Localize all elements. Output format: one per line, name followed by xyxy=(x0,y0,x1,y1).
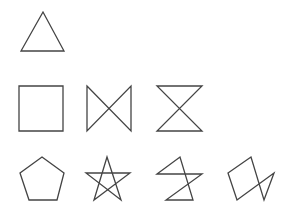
pentagram xyxy=(86,157,130,200)
zigzag-pentagon-path xyxy=(157,157,202,200)
bowtie xyxy=(87,86,131,131)
shapes-diagram xyxy=(0,0,286,219)
square xyxy=(19,86,63,131)
pentagon xyxy=(20,157,64,200)
tilted-pentagon-path xyxy=(228,157,274,200)
triangle xyxy=(21,12,64,51)
hourglass xyxy=(157,86,202,131)
